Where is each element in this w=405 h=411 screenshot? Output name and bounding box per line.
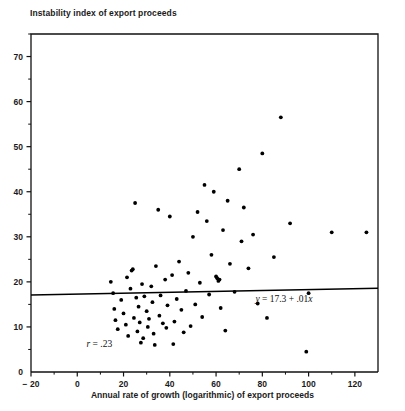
x-tick-label: 20 (119, 379, 129, 389)
data-point (157, 314, 161, 318)
data-point (114, 318, 118, 322)
data-point (182, 330, 186, 334)
data-point (207, 293, 211, 297)
scatter-plot-figure: Instability index of export proceeds − 2… (0, 0, 405, 411)
data-point (129, 287, 133, 291)
data-point (153, 343, 157, 347)
data-point (146, 325, 150, 329)
x-tick-label: 60 (211, 379, 221, 389)
y-tick-label: 50 (14, 142, 24, 152)
data-point (132, 316, 136, 320)
data-point (193, 303, 197, 307)
data-point (240, 239, 244, 243)
data-points (109, 115, 368, 353)
y-tick-label: 30 (14, 232, 24, 242)
data-point (145, 309, 149, 313)
x-tick-label: 120 (348, 379, 362, 389)
data-point (219, 306, 223, 310)
data-point (156, 208, 160, 212)
data-point (161, 321, 165, 325)
data-point (151, 300, 155, 304)
data-point (142, 294, 146, 298)
correlation-annotation: r = .23 (87, 339, 113, 349)
x-axis-tick-labels: − 20020406080100120 (23, 379, 363, 389)
regression-line (31, 288, 378, 295)
data-point (136, 330, 140, 334)
data-point (140, 282, 144, 286)
data-point (247, 266, 251, 270)
data-point (168, 215, 172, 219)
x-tick-label: 100 (302, 379, 316, 389)
data-point (137, 305, 141, 309)
data-point (365, 230, 369, 234)
data-point (196, 210, 200, 214)
plot-frame (31, 34, 378, 372)
data-point (141, 336, 145, 340)
data-point (159, 293, 163, 297)
plot-canvas: − 20020406080100120 010203040506070 r = … (0, 0, 405, 411)
data-point (223, 329, 227, 333)
data-point (177, 260, 181, 264)
data-point (186, 271, 190, 275)
data-point (210, 253, 214, 257)
data-point (149, 284, 153, 288)
data-point (200, 315, 204, 319)
x-tick-label: 0 (75, 379, 80, 389)
y-axis-ticks (27, 34, 32, 349)
data-point (154, 264, 158, 268)
data-point (175, 297, 179, 301)
data-point (191, 235, 195, 239)
data-point (198, 281, 202, 285)
x-tick-label: − 20 (23, 379, 40, 389)
data-point (133, 201, 137, 205)
data-point (288, 221, 292, 225)
data-point (126, 334, 130, 338)
data-point (279, 115, 283, 119)
data-point (166, 303, 170, 307)
data-point (125, 275, 129, 279)
data-point (260, 152, 264, 156)
data-point (173, 320, 177, 324)
data-point (203, 183, 207, 187)
data-point (134, 296, 138, 300)
data-point (184, 289, 188, 293)
y-axis-tick-labels: 010203040506070 (14, 52, 24, 377)
data-point (189, 324, 193, 328)
data-point (112, 307, 116, 311)
data-point (147, 317, 151, 321)
y-tick-label: 70 (14, 52, 24, 62)
data-point (138, 321, 142, 325)
data-point (330, 230, 334, 234)
data-point (221, 228, 225, 232)
regression-equation-annotation: y = 17.3 + .01x (254, 294, 313, 304)
data-point (212, 190, 216, 194)
x-tick-label: 40 (165, 379, 175, 389)
data-point (179, 308, 183, 312)
y-tick-label: 60 (14, 97, 24, 107)
data-point (242, 206, 246, 210)
data-point (272, 255, 276, 259)
data-point (131, 267, 135, 271)
data-point (122, 312, 126, 316)
data-point (139, 341, 143, 345)
y-tick-label: 20 (14, 277, 24, 287)
data-point (218, 278, 222, 282)
data-point (237, 167, 241, 171)
data-point (109, 280, 113, 284)
data-point (163, 278, 167, 282)
data-point (304, 350, 308, 354)
y-tick-label: 0 (18, 367, 23, 377)
data-point (171, 342, 175, 346)
data-point (116, 327, 120, 331)
data-point (170, 273, 174, 277)
data-point (228, 262, 232, 266)
data-point (233, 290, 237, 294)
data-point (265, 316, 269, 320)
data-point (111, 291, 115, 295)
data-point (251, 233, 255, 237)
y-tick-label: 40 (14, 187, 24, 197)
data-point (152, 332, 156, 336)
x-axis-title: Annual rate of growth (logarithmic) of e… (0, 390, 405, 400)
data-point (164, 326, 168, 330)
data-point (124, 323, 128, 327)
